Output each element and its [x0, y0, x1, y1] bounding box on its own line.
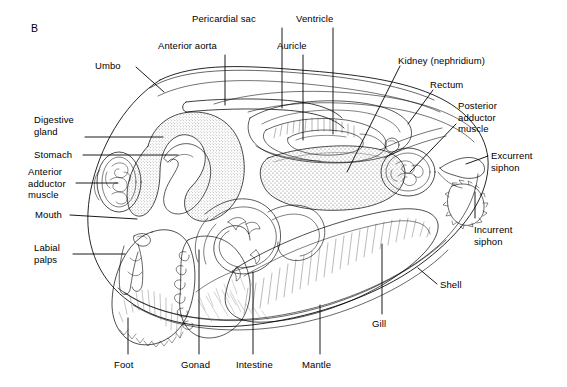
label-umbo: Umbo — [95, 60, 121, 72]
label-mouth: Mouth — [35, 209, 62, 221]
label-gonad: Gonad — [181, 359, 210, 371]
label-gill: Gill — [372, 318, 386, 330]
figure-panel: B — [0, 0, 567, 387]
label-ventricle: Ventricle — [296, 13, 333, 25]
labial-palps — [119, 244, 143, 295]
leader-posterior-adductor — [410, 124, 456, 172]
leader-mouth — [70, 215, 137, 219]
excurrent-siphon — [438, 157, 485, 188]
umbo — [150, 70, 440, 112]
label-labial-palps: Labial palps — [34, 242, 60, 265]
leader-rectum — [408, 90, 433, 124]
label-anterior-adductor-muscle: Anterior adductor muscle — [28, 166, 66, 201]
digestive-gland — [127, 112, 244, 221]
leader-shell — [418, 268, 437, 284]
mantle — [118, 240, 446, 321]
mouth — [133, 234, 150, 247]
label-intestine: Intestine — [236, 359, 273, 371]
label-foot: Foot — [114, 359, 133, 371]
label-kidney-nephridium: Kidney (nephridium) — [398, 55, 485, 67]
label-auricle: Auricle — [277, 40, 307, 52]
kidney-nephridium — [260, 146, 405, 210]
label-digestive-gland: Digestive gland — [34, 114, 74, 137]
gonad — [174, 236, 250, 338]
label-incurrent-siphon: Incurrent siphon — [474, 224, 512, 247]
label-posterior-adductor-muscle: Posterior adductor muscle — [458, 100, 497, 135]
label-anterior-aorta: Anterior aorta — [158, 40, 217, 52]
label-mantle: Mantle — [302, 359, 331, 371]
label-pericardial-sac: Pericardial sac — [192, 13, 256, 25]
label-rectum: Rectum — [430, 79, 463, 91]
label-stomach: Stomach — [34, 149, 72, 161]
label-excurrent-siphon: Excurrent siphon — [491, 150, 533, 173]
foot — [112, 230, 195, 347]
label-shell: Shell — [440, 279, 462, 291]
